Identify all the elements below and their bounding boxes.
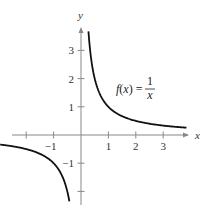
y-axis-arrow-icon xyxy=(79,27,84,33)
y-tick-label: 1 xyxy=(69,101,75,113)
x-tick-label: 1 xyxy=(106,140,112,152)
y-tick-label: −1 xyxy=(62,157,74,169)
x-tick-label: 3 xyxy=(160,140,166,152)
x-axis-label: x xyxy=(194,129,200,141)
graph-canvas: −1123−1123xyf(x) =1x xyxy=(0,0,212,215)
x-axis-arrow-icon xyxy=(183,133,189,138)
y-tick-label: 2 xyxy=(69,73,75,85)
function-label: f(x) = xyxy=(116,82,143,96)
curve-positive-branch xyxy=(88,31,186,127)
y-tick-label: 3 xyxy=(69,44,75,56)
fraction-denominator: x xyxy=(146,88,153,102)
fraction-numerator: 1 xyxy=(147,74,153,88)
x-tick-label: 2 xyxy=(133,140,139,152)
x-tick-label: −1 xyxy=(45,140,57,152)
curve-negative-branch xyxy=(0,145,69,202)
y-axis-label: y xyxy=(77,9,83,21)
